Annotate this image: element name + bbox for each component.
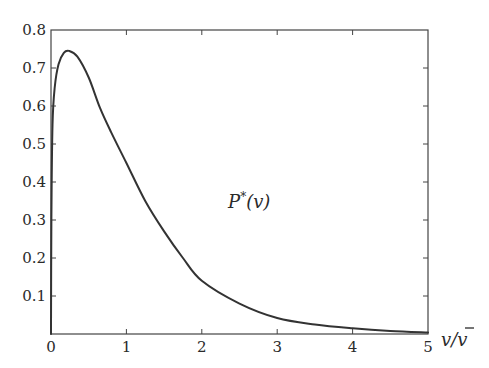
y-tick-labels: 0.10.20.30.40.50.60.70.8	[22, 21, 46, 305]
plot-frame	[51, 30, 428, 334]
y-tick-label: 0.7	[22, 59, 46, 77]
x-tick-label: 3	[272, 338, 282, 356]
y-tick-label: 0.1	[22, 287, 46, 305]
x-tick-label: 0	[46, 338, 56, 356]
x-tick-label: 4	[348, 338, 358, 356]
x-axis-label-vbar: v	[457, 329, 467, 350]
plot-border	[51, 30, 428, 334]
y-tick-label: 0.2	[22, 249, 46, 267]
y-tick-label: 0.6	[22, 97, 46, 115]
x-axis-label: v/v	[441, 328, 474, 350]
curve-annotation: P*(v)	[227, 190, 270, 212]
y-tick-label: 0.3	[22, 211, 46, 229]
distribution-chart: 012345 0.10.20.30.40.50.60.70.8 P*(v) v/…	[0, 0, 489, 368]
y-tick-label: 0.5	[22, 135, 46, 153]
axis-ticks	[51, 30, 428, 334]
annotation-arg: (v)	[246, 191, 270, 212]
annotation-P: P	[227, 191, 241, 212]
svg-text:v/v: v/v	[441, 329, 467, 350]
x-tick-label: 1	[122, 338, 132, 356]
x-tick-label: 2	[197, 338, 207, 356]
x-tick-label: 5	[423, 338, 433, 356]
y-tick-label: 0.8	[22, 21, 46, 39]
y-tick-label: 0.4	[22, 173, 46, 191]
x-tick-labels: 012345	[46, 338, 433, 356]
